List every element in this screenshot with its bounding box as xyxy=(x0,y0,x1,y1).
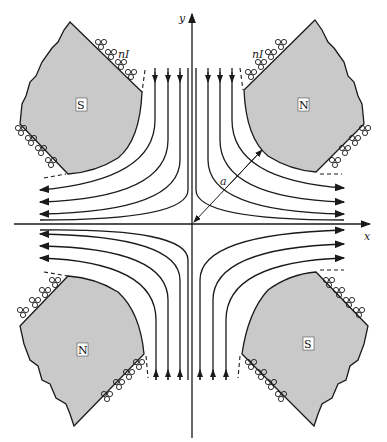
x-axis-label: x xyxy=(364,230,371,243)
pole-label: S xyxy=(304,338,312,351)
pole-label: N xyxy=(78,344,88,357)
dimension-label: a xyxy=(220,175,227,188)
pole-bottom-right: S xyxy=(238,270,368,426)
coil-label: nI xyxy=(118,48,130,61)
pole-bottom-left: N xyxy=(17,272,148,426)
pole-label: S xyxy=(77,99,85,112)
pole-top-right: N nI xyxy=(240,20,371,174)
y-axis-label: y xyxy=(178,12,186,25)
quadrupole-diagram: y x a S nI N nI N xyxy=(0,0,387,442)
coil-label: nI xyxy=(252,48,264,61)
pole-top-left: S nI xyxy=(15,22,145,178)
pole-label: N xyxy=(299,99,309,112)
